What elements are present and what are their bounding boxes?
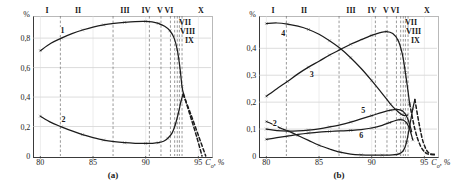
x-axis-tick: 95 <box>194 158 202 167</box>
zone-label-x: X <box>198 6 204 15</box>
y-axis-tick: 0 <box>252 152 256 161</box>
panel-b: %00,10,20,30,480859095Cо, % IIIIIIIVVVIX… <box>226 0 452 194</box>
panel-a-plot: %00,20,40,60,880859095Cо, % IIIIIIIVVVIX… <box>33 16 211 156</box>
y-axis-tick: 0,6 <box>21 63 30 72</box>
zone-label-iv: IV <box>142 6 151 15</box>
x-axis-tick: 80 <box>36 158 44 167</box>
curve-label-4: 4 <box>281 30 286 38</box>
curve-label-1: 1 <box>60 27 65 35</box>
zone-label-ix: IX <box>411 36 420 45</box>
x-axis-title: Cо, % <box>205 158 224 169</box>
zone-label-i: I <box>45 6 48 15</box>
zone-label-ix: IX <box>185 36 194 45</box>
x-axis-tick: 95 <box>420 158 428 167</box>
x-axis-tick: 85 <box>89 158 97 167</box>
y-axis-tick: 0,4 <box>247 44 256 53</box>
x-axis-tick: 85 <box>315 158 323 167</box>
panel-b-plot: %00,10,20,30,480859095Cо, % IIIIIIIVVVIX… <box>259 16 437 156</box>
y-axis-tick: 0,1 <box>247 125 256 134</box>
zone-label-iii: III <box>346 6 355 15</box>
y-axis-tick: 0,2 <box>247 98 256 107</box>
x-axis-title: Cо, % <box>431 158 450 169</box>
zone-label-i: I <box>271 6 274 15</box>
y-axis-tick: 0 <box>26 152 30 161</box>
y-axis-tick: 0,8 <box>21 34 30 43</box>
zone-label-vi: VI <box>391 6 400 15</box>
zone-label-vii: VII <box>405 18 417 27</box>
y-axis-tick: 0,3 <box>247 71 256 80</box>
x-axis-tick: 90 <box>368 158 376 167</box>
zone-label-ii: II <box>75 6 81 15</box>
panel-b-caption: (b) <box>226 170 452 180</box>
zone-label-viii: VIII <box>180 27 195 36</box>
zone-label-v: V <box>157 6 163 15</box>
y-axis-tick: 0,2 <box>21 122 30 131</box>
x-axis-tick: 90 <box>142 158 150 167</box>
panel-a: %00,20,40,60,880859095Cо, % IIIIIIIVVVIX… <box>0 0 226 194</box>
curve-label-2: 2 <box>272 120 277 128</box>
zone-label-v: V <box>383 6 389 15</box>
zone-label-iii: III <box>120 6 129 15</box>
zone-label-viii: VIII <box>406 27 421 36</box>
zone-label-vi: VI <box>165 6 174 15</box>
y-axis-unit: % <box>23 10 30 19</box>
curve-label-2: 2 <box>61 116 66 124</box>
zone-label-x: X <box>424 6 430 15</box>
panel-a-caption: (a) <box>0 170 226 180</box>
zone-label-vii: VII <box>179 18 191 27</box>
zone-label-ii: II <box>301 6 307 15</box>
zone-label-iv: IV <box>368 6 377 15</box>
curve-label-6: 6 <box>359 132 364 140</box>
curve-label-3: 3 <box>309 71 314 79</box>
curve-label-5: 5 <box>361 107 366 115</box>
y-axis-unit: % <box>249 10 256 19</box>
y-axis-tick: 0,4 <box>21 93 30 102</box>
x-axis-tick: 80 <box>262 158 270 167</box>
figure-two-panel-chart: %00,20,40,60,880859095Cо, % IIIIIIIVVVIX… <box>0 0 452 194</box>
